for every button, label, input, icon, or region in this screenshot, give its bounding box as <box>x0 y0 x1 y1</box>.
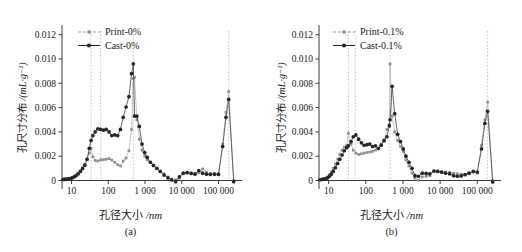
y-tick-label: 0.010 <box>35 54 57 64</box>
legend-label: Print-0.1% <box>360 26 404 37</box>
x-tick-label: 10 000 <box>169 186 195 196</box>
legend: Print-0%Cast-0% <box>78 26 141 51</box>
series-cast <box>61 62 236 184</box>
y-tick-label: 0.008 <box>292 79 314 89</box>
panel-b-y-axis-label: 孔尺寸分布 /(mL·g⁻¹) <box>273 62 288 153</box>
panel-b: 00.0020.0040.0060.0080.0100.012101001 00… <box>261 0 522 252</box>
y-tick-label: 0.006 <box>292 103 314 113</box>
figure-container: 00.0020.0040.0060.0080.0100.012101001 00… <box>0 0 522 252</box>
y-axis-label-cn: 孔尺寸分布 <box>275 103 287 153</box>
panel-a-y-axis-label: 孔尺寸分布 /(mL·g⁻¹) <box>14 62 29 153</box>
y-tick-label: 0.002 <box>35 151 57 161</box>
x-tick-label: 10 <box>324 186 334 196</box>
series-cast <box>318 85 495 184</box>
y-tick-label: 0.008 <box>35 79 57 89</box>
y-tick-label: 0.004 <box>35 127 57 137</box>
y-tick-label: 0.012 <box>292 30 314 40</box>
series-print <box>319 63 495 182</box>
y-tick-label: 0.006 <box>35 103 57 113</box>
y-axis-label-unit: /(mL·g⁻¹) <box>276 62 287 100</box>
x-tick-label: 100 <box>101 186 116 196</box>
series-print <box>62 76 236 182</box>
x-tick-label: 100 000 <box>462 186 493 196</box>
x-axis-label-cn: 孔径大小 <box>360 209 404 222</box>
legend-label: Cast-0% <box>105 40 139 51</box>
legend-label: Cast-0.1% <box>360 40 402 51</box>
x-tick-label: 1 000 <box>392 186 414 196</box>
y-axis-label-cn: 孔尺寸分布 <box>16 103 28 153</box>
x-tick-label: 100 <box>359 186 374 196</box>
y-tick-label: 0 <box>51 176 56 186</box>
x-tick-label: 1 000 <box>134 186 156 196</box>
x-tick-label: 100 000 <box>203 186 234 196</box>
y-tick-label: 0 <box>308 176 313 186</box>
y-tick-label: 0.004 <box>292 127 314 137</box>
panel-b-caption: (b) <box>269 226 514 237</box>
x-tick-label: 10 000 <box>427 186 453 196</box>
x-axis-label-cn: 孔径大小 <box>99 209 143 222</box>
y-tick-label: 0.010 <box>292 54 314 64</box>
legend: Print-0.1%Cast-0.1% <box>333 26 404 51</box>
legend-label: Print-0% <box>105 26 141 37</box>
y-tick-label: 0.002 <box>292 151 314 161</box>
x-tick-label: 10 <box>67 186 77 196</box>
panel-a: 00.0020.0040.0060.0080.0100.012101001 00… <box>0 0 261 252</box>
y-axis-label-unit: /(mL·g⁻¹) <box>17 62 28 100</box>
panel-a-caption: (a) <box>10 226 251 237</box>
x-axis-label-unit: /nm <box>146 209 163 221</box>
panel-a-x-axis-label: 孔径大小 /nm <box>10 206 251 222</box>
x-axis-label-unit: /nm <box>407 209 424 221</box>
panel-b-x-axis-label: 孔径大小 /nm <box>269 206 514 222</box>
y-tick-label: 0.012 <box>35 30 57 40</box>
